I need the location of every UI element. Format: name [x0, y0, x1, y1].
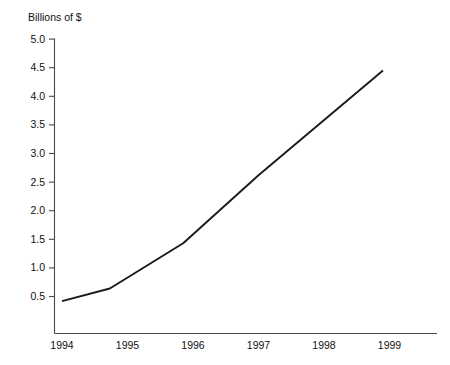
data-series-group: [62, 71, 383, 302]
y-tick-label: 2.5: [30, 176, 45, 188]
chart-canvas: Billions of $ 0.5 1.0 1.5 2.0 2.5 3.0 3.…: [0, 0, 450, 365]
x-tick-label: 1996: [181, 339, 205, 351]
y-tick-label: 1.5: [30, 233, 45, 245]
y-tick-label: 5.0: [30, 33, 45, 45]
y-tick-label: 3.5: [30, 118, 45, 130]
x-tick-label: 1999: [378, 339, 402, 351]
series-line-billions-of-dollars: [62, 71, 383, 302]
y-tick-label: 4.5: [30, 61, 45, 73]
y-tick-label: 4.0: [30, 90, 45, 102]
y-tick-label: 3.0: [30, 147, 45, 159]
x-tick-label: 1998: [312, 339, 336, 351]
x-tick-label: 1997: [247, 339, 271, 351]
x-tick-group: 1994 1995 1996 1997 1998 1999: [50, 339, 401, 351]
y-axis-title: Billions of $: [28, 11, 82, 23]
y-tick-label: 0.5: [30, 290, 45, 302]
x-tick-label: 1995: [116, 339, 140, 351]
x-axis: 1994 1995 1996 1997 1998 1999: [50, 334, 437, 352]
x-tick-label: 1994: [50, 339, 74, 351]
line-chart-figure: Billions of $ 0.5 1.0 1.5 2.0 2.5 3.0 3.…: [0, 0, 450, 365]
y-tick-label: 2.0: [30, 204, 45, 216]
y-axis: 0.5 1.0 1.5 2.0 2.5 3.0 3.5 4.0 4.5 5.: [30, 33, 54, 334]
y-tick-group: 0.5 1.0 1.5 2.0 2.5 3.0 3.5 4.0 4.5 5.: [30, 33, 54, 302]
y-tick-label: 1.0: [30, 261, 45, 273]
